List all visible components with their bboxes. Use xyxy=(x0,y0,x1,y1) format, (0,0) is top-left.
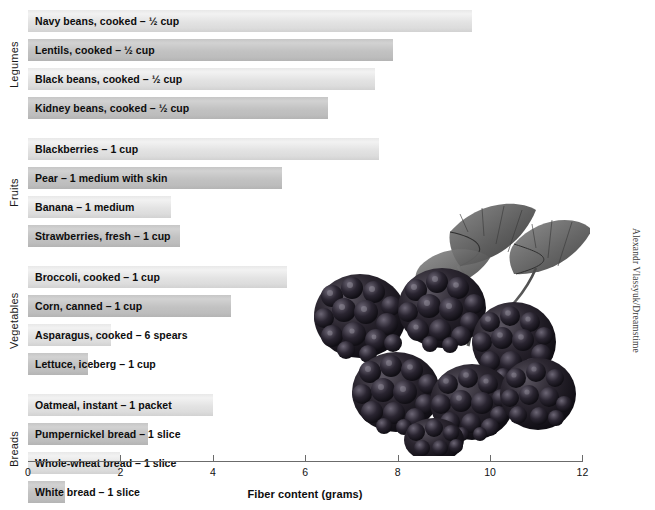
bar-label: Broccoli, cooked – 1 cup xyxy=(35,266,160,288)
x-axis-tick xyxy=(490,455,491,462)
x-axis-tick-label: 6 xyxy=(290,466,320,478)
bar-label: Corn, canned – 1 cup xyxy=(35,295,142,317)
x-axis-tick-label: 0 xyxy=(13,466,43,478)
x-axis-tick xyxy=(120,455,121,462)
bar-label: Pumpernickel bread – 1 slice xyxy=(35,423,181,445)
x-axis-tick-label: 4 xyxy=(198,466,228,478)
bar-label: Lentils, cooked – ½ cup xyxy=(35,39,155,61)
x-axis-tick-label: 2 xyxy=(105,466,135,478)
x-axis-tick xyxy=(213,455,214,462)
x-axis-tick-label: 10 xyxy=(475,466,505,478)
x-axis-tick-label: 12 xyxy=(567,466,597,478)
x-axis-tick-label: 8 xyxy=(383,466,413,478)
group-label-legumes: Legumes xyxy=(8,10,22,119)
x-axis-tick xyxy=(398,455,399,462)
bar-label: Kidney beans, cooked – ½ cup xyxy=(35,97,189,119)
bar-label: Navy beans, cooked – ½ cup xyxy=(35,10,179,32)
bar-label: Blackberries – 1 cup xyxy=(35,138,138,160)
fiber-content-figure: Alexandr Vlassyuk/Dreamstime Navy beans,… xyxy=(0,0,655,510)
x-axis-tick xyxy=(305,455,306,462)
bar-label: Asparagus, cooked – 6 spears xyxy=(35,324,188,346)
group-label-vegetables: Vegetables xyxy=(8,266,22,375)
bar-label: Black beans, cooked – ½ cup xyxy=(35,68,182,90)
x-axis-title: Fiber content (grams) xyxy=(0,488,610,500)
bar-label: Lettuce, iceberg – 1 cup xyxy=(35,353,156,375)
bar-label: Pear – 1 medium with skin xyxy=(35,167,168,189)
plot-area: Navy beans, cooked – ½ cupLentils, cooke… xyxy=(0,0,655,462)
group-label-breads: Breads xyxy=(8,394,22,503)
bar-label: Strawberries, fresh – 1 cup xyxy=(35,225,171,247)
group-label-fruits: Fruits xyxy=(8,138,22,247)
bar-label: Oatmeal, instant – 1 packet xyxy=(35,394,172,416)
x-axis-tick xyxy=(582,455,583,462)
bar-label: Banana – 1 medium xyxy=(35,196,134,218)
